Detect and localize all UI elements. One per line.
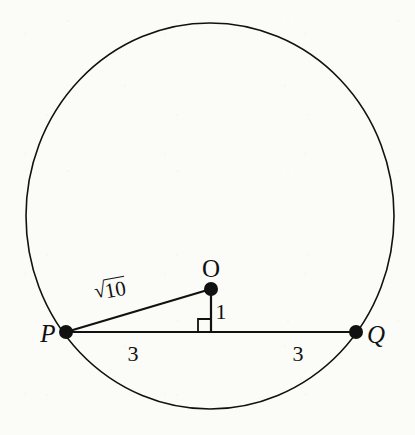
- right-angle-icon: [198, 319, 211, 332]
- radical-expression: √10: [92, 276, 127, 304]
- radicand-value: 10: [103, 276, 128, 302]
- point-label-p: P: [40, 321, 55, 346]
- point-dot-o: [204, 282, 218, 296]
- measure-label-hypotenuse: √10: [92, 276, 127, 304]
- measure-label-half-chord-left: 3: [128, 343, 139, 365]
- measure-label-half-chord-right: 3: [293, 343, 304, 365]
- point-dot-p: [59, 325, 73, 339]
- circle-outline: [26, 23, 394, 409]
- diagram-canvas: [0, 0, 415, 435]
- point-label-o: O: [202, 256, 220, 281]
- point-dot-q: [349, 325, 363, 339]
- point-label-q: Q: [367, 322, 385, 347]
- geometry-figure: P O Q √10 1 3 3: [0, 0, 415, 435]
- radius-segment-po: [66, 289, 211, 332]
- measure-label-perpendicular: 1: [216, 301, 227, 323]
